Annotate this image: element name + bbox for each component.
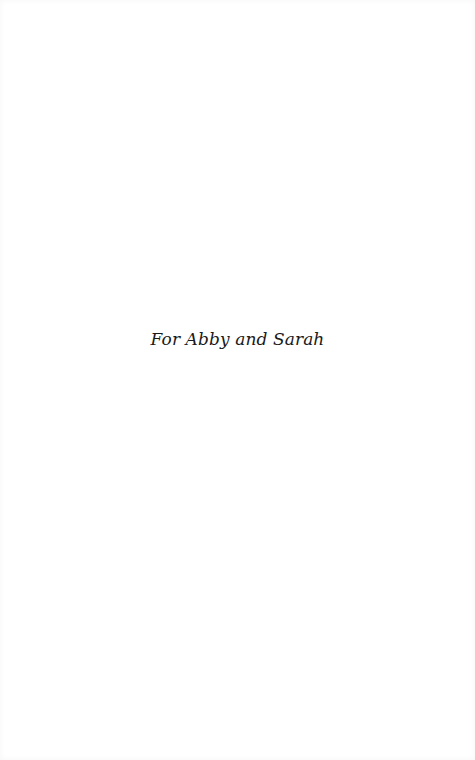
dedication-text: For Abby and Sarah xyxy=(0,328,475,350)
dedication-page: For Abby and Sarah xyxy=(0,0,475,760)
